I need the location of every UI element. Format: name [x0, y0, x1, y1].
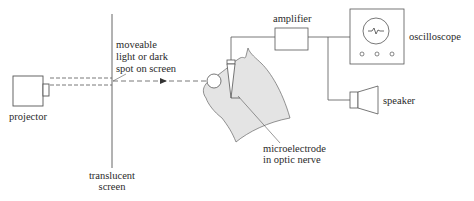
speaker-label: speaker: [383, 95, 416, 106]
projector-icon: [13, 76, 49, 106]
spot-label-line3: spot on screen: [116, 63, 177, 74]
spot-label-line1: moveable: [116, 39, 157, 50]
electrode-label-line1: microelectrode: [263, 143, 326, 154]
speaker-icon: [350, 86, 378, 114]
light-beam: [50, 78, 112, 85]
diagram-canvas: projector translucent screen moveable li…: [0, 0, 474, 201]
amplifier-box: [275, 28, 308, 50]
spot-leader-line: [113, 74, 126, 81]
spot-label-line2: light or dark: [116, 51, 169, 62]
arrow-icon: [160, 78, 167, 84]
projector-label: projector: [9, 111, 47, 122]
screen-label-line2: screen: [99, 181, 127, 192]
oscilloscope-label: oscilloscope: [409, 31, 461, 42]
oscilloscope-icon: [350, 9, 404, 64]
amplifier-label: amplifier: [273, 13, 312, 24]
eye-icon: [207, 74, 221, 88]
electrode-label-line2: in optic nerve: [263, 154, 321, 165]
screen-label-line1: translucent: [89, 170, 135, 181]
cat-head: [203, 48, 290, 142]
